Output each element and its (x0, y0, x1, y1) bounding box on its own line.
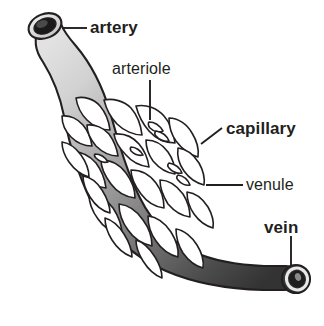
label-vein: vein (264, 219, 298, 236)
label-capillary: capillary (226, 120, 296, 137)
diagram-canvas: artery arteriole capillary venule vein (0, 0, 324, 326)
label-venule: venule (246, 177, 294, 193)
capillary-bed-illustration (0, 0, 324, 326)
leader-line-capillary (201, 128, 222, 144)
label-artery: artery (90, 19, 138, 36)
capillary-cell (187, 192, 213, 228)
vein-tube-end (282, 265, 310, 293)
label-arteriole: arteriole (112, 61, 171, 77)
